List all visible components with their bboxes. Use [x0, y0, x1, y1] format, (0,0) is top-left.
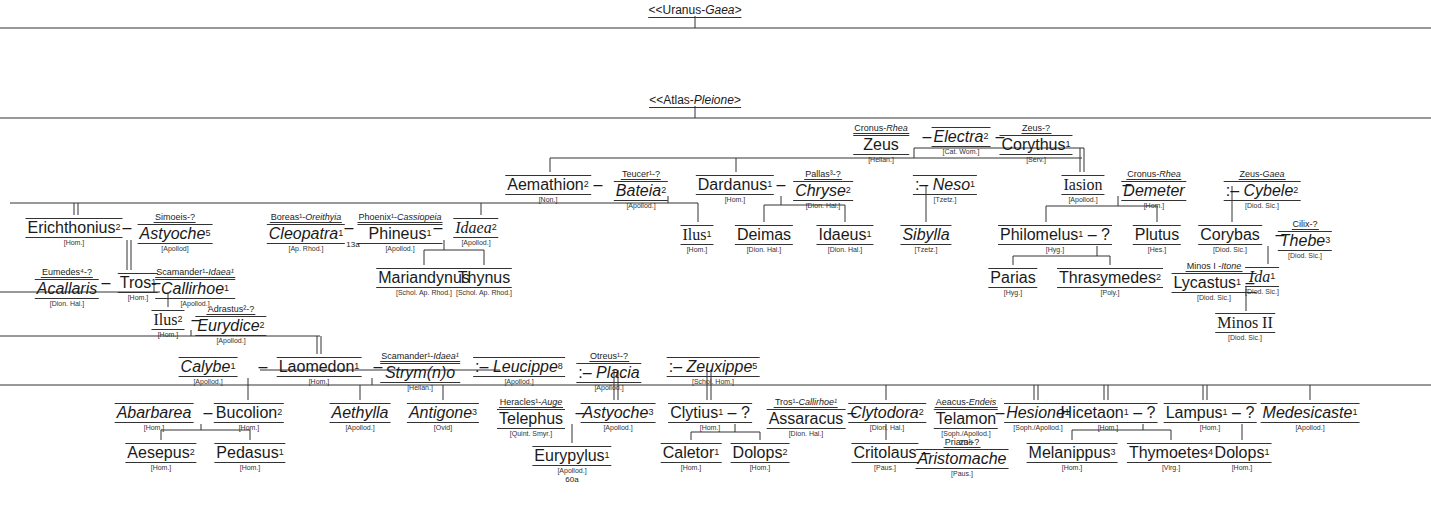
person-corythus: Zeus-?Corythus1[Serv.] [999, 117, 1072, 164]
person-name: Neso [933, 176, 970, 193]
name-row: Thrasymedes2 [1057, 268, 1163, 288]
marriage-dash: – [848, 404, 857, 422]
parents-label: Cilix-? [1291, 219, 1318, 230]
person-name: Hesione [1006, 404, 1065, 421]
person-strymo: Scamander¹-Idaea¹Strym(n)o[Hellan.] [380, 345, 460, 392]
name-row: Caletor1 [661, 443, 722, 463]
person-medesicaste: Medesicaste1[Apollod.] [1261, 403, 1360, 432]
name-row: Corybas [1198, 225, 1262, 245]
source-citation: [Hom.] [125, 463, 196, 472]
person-aethylla: Aethylla[Apollod.] [330, 403, 391, 432]
person-antigone: Antigone3[Ovid] [407, 403, 479, 432]
source-citation: [Apollod.] [473, 377, 565, 386]
name-row: Medesicaste1 [1261, 403, 1360, 423]
source-citation: [Dion. Hal.] [848, 423, 926, 432]
person-name: Phineus [369, 225, 427, 242]
name-row: :– Placia [576, 363, 641, 383]
source-citation: [Apollod.] [330, 423, 391, 432]
person-parias: Parias[Hyg.] [988, 268, 1037, 297]
name-row: Ilus2 [151, 310, 184, 330]
source-citation: [Apollod.] [614, 201, 668, 210]
person-acallaris: Eumedes⁴-?Acallaris[Dion. Hal.] [35, 261, 99, 308]
name-row: Iasion [1061, 175, 1104, 195]
person-name: Bateia [616, 182, 661, 199]
person-name: Dardanus [698, 176, 767, 193]
person-zeus: Cronus-RheaZeus[Hellan.] [853, 117, 909, 164]
source-citation: [Dion. Hal.] [793, 201, 853, 210]
person-name: Zeuxippe [686, 358, 752, 375]
person-name: Philomelus [1000, 226, 1078, 243]
name-row: Telamon [934, 409, 998, 429]
person-name: Bucolion [216, 404, 277, 421]
person-name: Astyoche [140, 225, 206, 242]
source-citation: [Paus.] [916, 469, 1009, 478]
parents-label: Tros¹-Callirhoe¹ [774, 397, 838, 408]
source-citation: [Hyg.] [998, 245, 1112, 254]
parents-label: Aeacus-Endeis [935, 397, 998, 408]
person-name: Chryse [795, 182, 846, 199]
person-lycastus: Minos I -ItoneLycastus1 –[Diod. Sic.] [1172, 255, 1257, 302]
person-name: Lycastus [1174, 274, 1237, 291]
name-row: Lampus1 – ? [1164, 403, 1257, 423]
name-row: Aesepus2 [125, 443, 196, 463]
root-uranus-gaea: <<Uranus-Gaea> [648, 3, 741, 17]
name-row: Eurydice2 [195, 316, 266, 336]
person-name: Thrasymedes [1059, 269, 1156, 286]
person-name: Clytius [670, 404, 718, 421]
person-name: Ida [1249, 268, 1270, 285]
name-row: Dolops2 [731, 443, 790, 463]
name-row: Astyoche3 [581, 403, 656, 423]
person-name: Idaeus [818, 226, 866, 243]
name-row: Dardanus1 [696, 175, 774, 195]
name-row: Ida1 [1245, 267, 1279, 287]
name-row: Chryse2 [793, 181, 853, 201]
source-citation: [Hom.] [661, 463, 722, 472]
source-citation: [Dion. Hal.] [816, 245, 873, 254]
source-citation: [Hom.] [1059, 423, 1158, 432]
name-row: Electra2 [932, 127, 991, 147]
person-name: Laomedon [279, 358, 355, 375]
person-astyoche5: Simoeis-?Astyoche5[Apollod] [138, 206, 213, 253]
name-row: Parias [988, 268, 1037, 288]
name-row: :– Cybele2 [1224, 181, 1301, 201]
name-row: :– Leucippe8 [473, 357, 565, 377]
person-name: Corythus [1001, 136, 1065, 153]
source-citation: [Hom.] [214, 423, 284, 432]
person-name: Aesepus [127, 444, 189, 461]
person-sibylla: Sibylla[Tzetz.] [900, 225, 951, 254]
person-name: Dolops [1215, 444, 1265, 461]
person-name: Astyoche [583, 404, 649, 421]
person-name: Plutus [1135, 226, 1179, 243]
source-citation: [Diod. Sic.] [1278, 251, 1332, 260]
name-row: Acallaris [35, 279, 99, 299]
source-citation: [Hom.] [118, 293, 158, 302]
source-citation: [Dion. Hal.] [35, 299, 99, 308]
source-citation: [Hom.] [1121, 201, 1186, 210]
source-citation: [Tzetz.] [900, 245, 951, 254]
name-row: Idaeus1 [816, 225, 873, 245]
name-row: Strym(n)o [380, 363, 460, 383]
person-name: Cybele [1243, 182, 1293, 199]
person-ilus1: Ilus1[Hom.] [680, 225, 713, 254]
person-thrasymedes: Thrasymedes2[Poly.] [1057, 268, 1163, 297]
person-idaea2: Idaea2[Apollod.] [453, 218, 498, 247]
parents-label: Zeus-Gaea [1238, 169, 1285, 180]
name-row: Pedasus1 [214, 443, 285, 463]
person-calybe: Calybe1[Apollod.] [179, 357, 238, 386]
person-chryse: Pallas³-?Chryse2[Dion. Hal.] [793, 163, 853, 210]
parents-label: Scamander¹-Idaea¹ [380, 351, 460, 362]
parents-label: Otreus¹-? [589, 351, 629, 362]
name-row: Aethylla [330, 403, 391, 423]
person-electra: Electra2[Cat. Wom.] [932, 127, 991, 156]
source-citation: [Ap. Rhod.] [267, 244, 345, 253]
name-row: Assaracus [767, 409, 846, 429]
person-laomedon: Laomedon1[Hom.] [277, 357, 362, 386]
person-name: Parias [990, 269, 1035, 286]
source-citation: [Hom.] [1027, 463, 1118, 472]
source-citation: [Poly.] [1057, 288, 1163, 297]
person-eurydice: Adrastus²-?Eurydice2[Apollod.] [195, 298, 266, 345]
parents-label: Heracles¹-Auge [499, 397, 564, 408]
person-name: Eurypylus [534, 447, 604, 464]
source-citation: [Schol. Ap. Rhod.] [456, 288, 512, 297]
person-name: Medesicaste [1263, 404, 1353, 421]
